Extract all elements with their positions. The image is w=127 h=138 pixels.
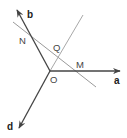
ray-label-d: d (7, 121, 13, 132)
ray-d (19, 71, 50, 128)
point-label-n: N (19, 35, 26, 46)
point-label-q: Q (53, 42, 60, 53)
ray-label-b: b (27, 9, 33, 20)
ray-label-a: a (114, 75, 120, 86)
geometry-diagram: b a d N Q M O (0, 0, 127, 138)
point-label-m: M (76, 59, 84, 70)
point-label-o: O (50, 74, 57, 85)
